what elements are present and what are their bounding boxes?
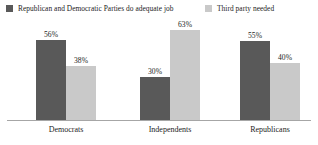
- bar-value-republicans-adequate: 55%: [240, 31, 270, 40]
- bar-value-independents-adequate: 30%: [140, 67, 170, 76]
- bar-wrap-republicans-adequate: 55%: [240, 41, 270, 120]
- bar-independents-thirdparty: [170, 30, 200, 120]
- bar-group-democrats-bars: 56% 38%: [36, 20, 96, 120]
- bar-wrap-democrats-adequate: 56%: [36, 40, 66, 120]
- bar-independents-adequate: [140, 77, 170, 120]
- bar-value-democrats-thirdparty: 38%: [66, 56, 96, 65]
- chart-legend: Republican and Democratic Parties do ade…: [0, 0, 318, 16]
- category-label-independents: Independents: [115, 124, 225, 135]
- bar-wrap-independents-adequate: 30%: [140, 77, 170, 120]
- bar-value-democrats-adequate: 56%: [36, 30, 66, 39]
- bar-democrats-adequate: [36, 40, 66, 120]
- bar-group-republicans-bars: 55% 40%: [240, 20, 300, 120]
- plot-area: 56% 38% 30% 63%: [0, 18, 318, 121]
- category-label-democrats: Democrats: [11, 124, 121, 135]
- bar-republicans-adequate: [240, 41, 270, 120]
- legend-label-third-party: Third party needed: [217, 4, 274, 13]
- bar-value-republicans-thirdparty: 40%: [270, 53, 300, 62]
- bar-group-independents-bars: 30% 63%: [140, 20, 200, 120]
- legend-label-adequate-job: Republican and Democratic Parties do ade…: [18, 4, 174, 13]
- bar-wrap-democrats-thirdparty: 38%: [66, 66, 96, 120]
- legend-swatch-dark-icon: [6, 5, 13, 12]
- bar-wrap-independents-thirdparty: 63%: [170, 30, 200, 120]
- grouped-bar-chart: Republican and Democratic Parties do ade…: [0, 0, 318, 145]
- axis-baseline: [7, 120, 311, 121]
- category-axis: Democrats Independents Republicans: [0, 124, 318, 138]
- category-label-republicans: Republicans: [215, 124, 318, 135]
- bar-wrap-republicans-thirdparty: 40%: [270, 63, 300, 120]
- bar-value-independents-thirdparty: 63%: [170, 20, 200, 29]
- bar-democrats-thirdparty: [66, 66, 96, 120]
- legend-swatch-light-icon: [205, 5, 212, 12]
- legend-item-adequate-job: Republican and Democratic Parties do ade…: [6, 0, 174, 16]
- bar-republicans-thirdparty: [270, 63, 300, 120]
- legend-item-third-party: Third party needed: [205, 0, 274, 16]
